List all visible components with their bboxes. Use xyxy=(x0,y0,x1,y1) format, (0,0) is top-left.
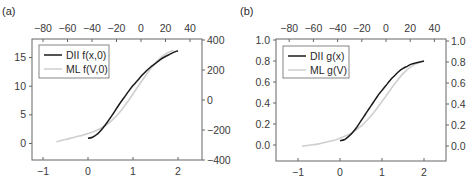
panel-a-label: (a) xyxy=(2,5,15,17)
legend-a-ml: ML f(V,0) xyxy=(66,63,108,75)
top-x-tick-label: 20 xyxy=(160,22,172,34)
y-tick-label: 5 xyxy=(20,108,26,120)
right-y-tick-label: 400 xyxy=(207,34,225,46)
legend-b-dii: DII g(x) xyxy=(310,50,344,62)
y-tick-label: 0 xyxy=(20,137,26,149)
top-x-tick-label: −80 xyxy=(34,22,52,34)
right-y-tick-label: 0 xyxy=(207,94,213,106)
top-x-tick-label: 20 xyxy=(404,22,416,34)
right-y-tick-label: 0.4 xyxy=(451,98,466,110)
x-tick-label: 2 xyxy=(175,165,181,177)
legend-a-dii: DII f(x,0) xyxy=(66,49,106,61)
x-tick-label: −1 xyxy=(37,165,49,177)
x-tick-label: 2 xyxy=(421,166,427,178)
top-x-tick-label: −60 xyxy=(59,22,77,34)
right-y-tick-label: 0.8 xyxy=(451,56,466,68)
y-tick-label: 0.6 xyxy=(255,76,270,88)
y-tick-label: 15 xyxy=(14,51,26,63)
x-tick-label: 0 xyxy=(337,166,343,178)
legend-b-ml: ML g(V) xyxy=(310,64,347,76)
top-x-tick-label: −80 xyxy=(280,22,298,34)
y-tick-label: 1.0 xyxy=(255,34,270,46)
top-x-tick-label: 0 xyxy=(383,22,389,34)
figure: (a) −1012051015−80−60−40−2002040−400−200… xyxy=(0,0,476,189)
right-y-tick-label: 0.6 xyxy=(451,77,466,89)
panel-b-axes: −10120.00.20.40.60.81.0−80−60−40−2002040… xyxy=(255,22,465,178)
y-tick-label: 0.4 xyxy=(255,97,270,109)
top-x-tick-label: 40 xyxy=(184,22,196,34)
panel-a-legend: DII f(x,0) ML f(V,0) xyxy=(39,45,109,78)
x-tick-label: 1 xyxy=(130,165,136,177)
top-x-tick-label: −20 xyxy=(108,22,126,34)
top-x-tick-label: 0 xyxy=(138,22,144,34)
right-y-tick-label: 0.2 xyxy=(451,119,466,131)
panel-b-label: (b) xyxy=(240,5,253,17)
top-x-tick-label: −20 xyxy=(353,22,371,34)
right-y-tick-label: 0.0 xyxy=(451,140,466,152)
y-tick-label: 0.2 xyxy=(255,118,270,130)
panel-b-legend: DII g(x) ML g(V) xyxy=(283,46,349,78)
panel-a-chart: (a) −1012051015−80−60−40−2002040−400−200… xyxy=(2,5,231,177)
y-tick-label: 10 xyxy=(14,80,26,92)
right-y-tick-label: −200 xyxy=(207,124,231,136)
y-tick-label: 0.0 xyxy=(255,139,270,151)
top-x-tick-label: −60 xyxy=(304,22,322,34)
x-tick-label: 1 xyxy=(379,166,385,178)
right-y-tick-label: −400 xyxy=(207,154,231,166)
top-x-tick-label: −40 xyxy=(329,22,347,34)
x-tick-label: 0 xyxy=(85,165,91,177)
y-tick-label: 0.8 xyxy=(255,55,270,67)
right-y-tick-label: 200 xyxy=(207,64,225,76)
right-y-tick-label: 1.0 xyxy=(451,35,466,47)
panel-b-chart: (b) −10120.00.20.40.60.81.0−80−60−40−200… xyxy=(240,5,466,178)
x-tick-label: −1 xyxy=(292,166,304,178)
top-x-tick-label: −40 xyxy=(83,22,101,34)
top-x-tick-label: 40 xyxy=(429,22,441,34)
